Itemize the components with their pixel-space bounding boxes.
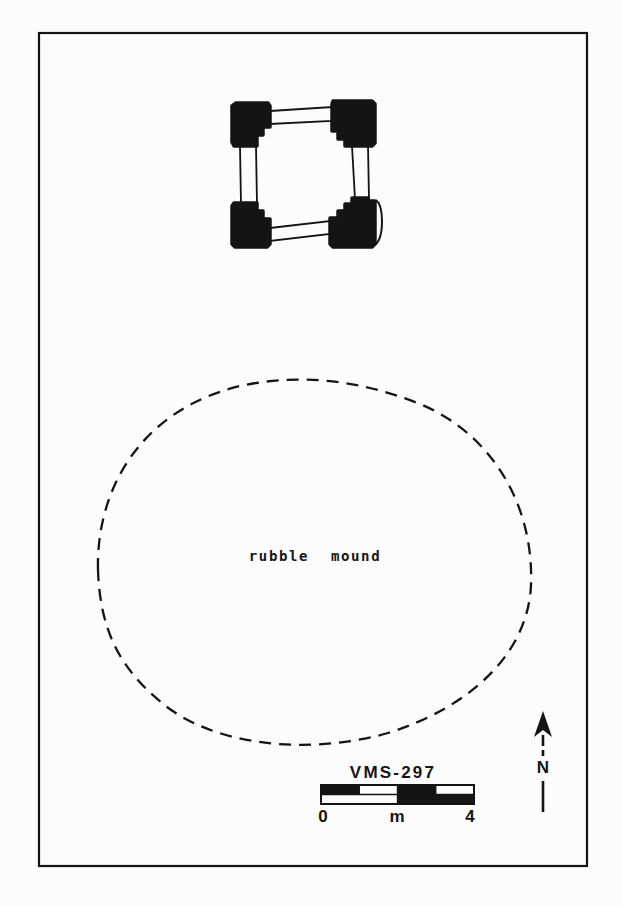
rubble-mound-label: rubble mound	[249, 548, 381, 564]
corner-post-bottom-right	[330, 198, 375, 247]
scale-max-label: 4	[465, 807, 474, 827]
scale-bar	[321, 785, 474, 804]
plan-border	[39, 33, 587, 866]
scale-unit-label: m	[389, 807, 404, 827]
scale-seg-bottom-2	[398, 795, 475, 805]
corner-post-top-right	[332, 101, 375, 146]
wall-top	[270, 107, 332, 124]
north-arrow-head	[534, 711, 552, 737]
scale-title: VMS-297	[350, 763, 436, 783]
scale-seg-top-1	[321, 785, 359, 795]
north-label: N	[537, 758, 549, 778]
wall-right	[352, 146, 369, 199]
scale-min-label: 0	[318, 807, 327, 827]
site-plan-page: rubble mound VMS-297 0 m 4 N	[0, 0, 621, 906]
corner-post-top-left	[232, 103, 270, 146]
square-structure	[232, 101, 382, 247]
wall-left	[240, 146, 257, 204]
scale-seg-top-3	[398, 785, 436, 795]
corner-post-bottom-left	[232, 203, 270, 247]
site-plan-drawing	[0, 0, 621, 906]
wall-bottom	[270, 221, 330, 241]
